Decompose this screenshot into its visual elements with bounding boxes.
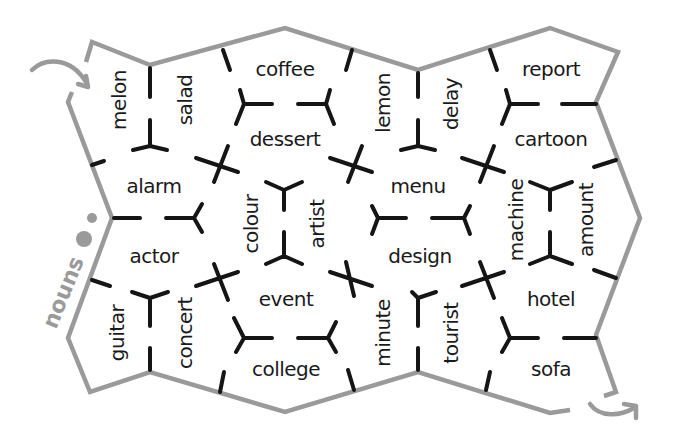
tile-colour[interactable]: colour [239, 193, 263, 253]
tile-event[interactable]: event [259, 287, 314, 311]
tile-hotel[interactable]: hotel [527, 287, 575, 311]
tile-lemon[interactable]: lemon [371, 73, 395, 133]
tile-sofa[interactable]: sofa [531, 357, 571, 381]
tile-amount[interactable]: amount [574, 182, 598, 257]
noun-puzzle-diagram: nouns [0, 0, 676, 444]
start-arrow-icon [32, 61, 88, 87]
cut-marks [92, 50, 616, 392]
tile-coffee[interactable]: coffee [256, 57, 315, 81]
puzzle-outline [68, 28, 640, 413]
tile-artist[interactable]: artist [305, 199, 329, 249]
tile-report[interactable]: report [522, 57, 581, 81]
end-arrow-icon [590, 404, 636, 418]
puzzle-canvas: nouns [0, 0, 676, 444]
nouns-label: nouns [37, 253, 88, 332]
tile-tourist[interactable]: tourist [439, 302, 463, 364]
dot-large-icon [76, 231, 92, 247]
tile-menu[interactable]: menu [390, 174, 445, 198]
tile-machine[interactable]: machine [504, 179, 528, 262]
tile-delay[interactable]: delay [439, 77, 463, 130]
tile-college[interactable]: college [252, 357, 320, 381]
tile-melon[interactable]: melon [107, 70, 131, 130]
label-dots [76, 213, 97, 247]
tile-guitar[interactable]: guitar [105, 304, 129, 362]
tile-actor[interactable]: actor [129, 244, 179, 268]
tile-alarm[interactable]: alarm [127, 174, 182, 198]
dot-small-icon [87, 213, 97, 223]
tile-minute[interactable]: minute [371, 299, 395, 367]
tile-salad[interactable]: salad [173, 75, 197, 126]
tile-dessert[interactable]: dessert [250, 127, 321, 151]
tile-design[interactable]: design [388, 244, 451, 268]
tile-concert[interactable]: concert [173, 296, 197, 368]
tile-cartoon[interactable]: cartoon [515, 127, 588, 151]
